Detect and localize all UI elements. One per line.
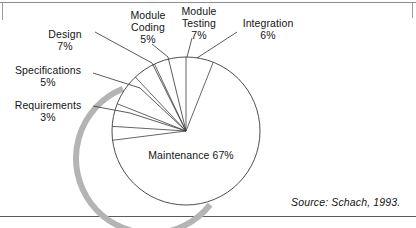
slice-label-specifications-name: Specifications xyxy=(15,64,81,76)
slice-label-design-name: Design xyxy=(48,28,81,40)
slice-label-design-percent: 7% xyxy=(38,40,92,52)
slice-label-requirements-name: Requirements xyxy=(15,99,82,111)
slice-label-requirements-percent: 3% xyxy=(6,111,90,123)
source-attribution: Source: Schach, 1993. xyxy=(291,196,400,208)
slice-label-module-testing-line1: Module xyxy=(181,5,216,17)
slice-label-integration-name: Integration xyxy=(243,17,294,29)
slice-label-maintenance: Maintenance 67% xyxy=(136,149,246,161)
slice-label-requirements: Requirements 3% xyxy=(6,99,90,123)
slice-label-module-coding-line1: Module xyxy=(130,9,165,21)
slice-label-module-coding: Module Coding 5% xyxy=(120,9,176,45)
leader-module-coding xyxy=(152,44,168,57)
slice-label-module-testing-line2: Testing xyxy=(173,17,225,29)
pie-chart-figure: Design 7% Specifications 5% Requirements… xyxy=(0,0,416,228)
slice-label-integration: Integration 6% xyxy=(234,17,302,41)
slice-label-module-coding-percent: 5% xyxy=(120,33,176,45)
slice-label-specifications-percent: 5% xyxy=(6,76,90,88)
slice-label-integration-percent: 6% xyxy=(234,29,302,41)
slice-label-specifications: Specifications 5% xyxy=(6,64,90,88)
slice-label-design: Design 7% xyxy=(38,28,92,52)
slice-label-module-testing: Module Testing 7% xyxy=(173,5,225,41)
slice-label-module-coding-line2: Coding xyxy=(120,21,176,33)
slice-label-module-testing-percent: 7% xyxy=(173,29,225,41)
